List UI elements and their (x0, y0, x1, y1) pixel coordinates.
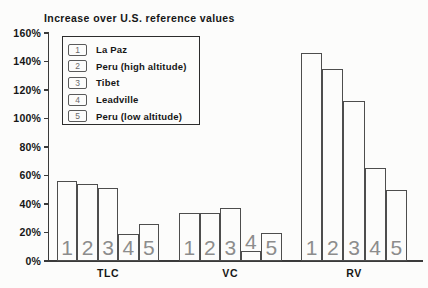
altitude-lung-volumes-chart: Increase over U.S. reference values 1La … (0, 0, 428, 288)
bar-number-label: 3 (220, 237, 241, 258)
legend-key-number: 5 (75, 111, 80, 121)
legend-item-label: Peru (high altitude) (96, 61, 187, 72)
y-tick-mark (44, 175, 50, 176)
y-tick-label: 60% (7, 170, 41, 181)
bar-number-label: 5 (139, 237, 159, 258)
group-label: TLC (83, 267, 133, 279)
legend-key-box: 4 (68, 94, 87, 106)
bar-number-label: 4 (241, 231, 262, 252)
legend-key-box: 3 (68, 77, 87, 89)
legend-key-number: 2 (75, 61, 80, 71)
group-label: VC (205, 267, 255, 279)
bar-number-label: 3 (343, 237, 364, 258)
legend: 1La Paz2Peru (high altitude)3Tibet4Leadv… (62, 36, 200, 125)
bar-number-label: 5 (386, 237, 407, 258)
y-tick-mark (44, 146, 50, 147)
chart-title: Increase over U.S. reference values (44, 12, 235, 24)
legend-item: 3Tibet (63, 76, 120, 90)
y-tick-label: 40% (7, 199, 41, 210)
bar-number-label: 2 (200, 237, 221, 258)
bar-number-label: 2 (77, 237, 97, 258)
y-tick-label: 20% (7, 227, 41, 238)
y-tick-label: 120% (7, 85, 41, 96)
y-tick-label: 160% (7, 28, 41, 39)
legend-item: 5Peru (low altitude) (63, 109, 182, 123)
legend-key-number: 1 (75, 45, 80, 55)
bar-number-label: 3 (98, 237, 118, 258)
legend-key-number: 4 (75, 95, 80, 105)
bar-number-label: 1 (179, 237, 200, 258)
legend-item-label: Peru (low altitude) (96, 111, 182, 122)
legend-item-label: La Paz (96, 44, 127, 55)
y-tick-mark (44, 260, 50, 261)
legend-item-label: Leadville (96, 94, 138, 105)
y-tick-mark (44, 118, 50, 119)
y-tick-label: 140% (7, 56, 41, 67)
y-tick-label: 0% (7, 256, 41, 267)
y-tick-mark (44, 32, 50, 33)
bar-number-label: 1 (57, 237, 77, 258)
bar-number-label: 5 (261, 237, 282, 258)
bar-number-label: 2 (322, 237, 343, 258)
bar-number-label: 4 (365, 237, 386, 258)
legend-key-box: 5 (68, 110, 87, 122)
legend-item: 4Leadville (63, 93, 138, 107)
bar (322, 69, 343, 261)
legend-key-box: 1 (68, 44, 87, 56)
group-label: RV (329, 267, 379, 279)
bar (301, 53, 322, 261)
legend-item: 2Peru (high altitude) (63, 59, 187, 73)
y-tick-label: 100% (7, 113, 41, 124)
legend-key-box: 2 (68, 60, 87, 72)
y-tick-mark (44, 203, 50, 204)
bar-number-label: 4 (118, 237, 138, 258)
y-tick-label: 80% (7, 142, 41, 153)
y-tick-mark (44, 61, 50, 62)
bar-number-label: 1 (301, 237, 322, 258)
legend-item-label: Tibet (96, 77, 120, 88)
y-tick-mark (44, 232, 50, 233)
legend-key-number: 3 (75, 78, 80, 88)
y-tick-mark (44, 89, 50, 90)
legend-item: 1La Paz (63, 43, 127, 57)
